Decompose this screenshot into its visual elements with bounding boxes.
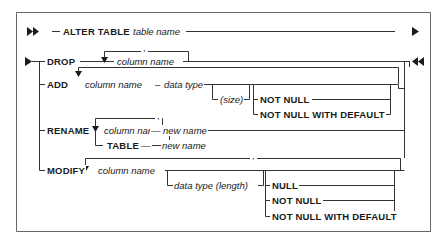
modify-option-null: NULL [271, 180, 299, 191]
add-data-type: data type [163, 79, 204, 90]
rename-dash: — [150, 125, 162, 136]
repeat-arrow-icon [75, 71, 82, 77]
drop-column-name: column name [116, 56, 175, 67]
continuation-arrow-icon [25, 57, 32, 66]
add-size: (size) [219, 94, 244, 105]
table-name-variable: table name [132, 26, 181, 37]
add-dash: – [154, 79, 161, 90]
drop-keyword: DROP [46, 56, 76, 67]
add-option-not-null: NOT NULL [259, 94, 311, 105]
rename-repeat-separator: , [155, 112, 162, 121]
rename-new-name: new name [162, 125, 208, 136]
repeat-arrow-icon [101, 57, 108, 63]
start-double-arrow-icon [27, 27, 39, 36]
rename-keyword: RENAME [46, 125, 90, 136]
modify-option-not-null: NOT NULL [271, 195, 323, 206]
syntax-diagram: ALTER TABLE table name DROP , column nam… [0, 0, 448, 245]
continue-arrow-icon [412, 27, 419, 36]
repeat-arrow-icon [92, 126, 99, 132]
add-option-not-null-with-default: NOT NULL WITH DEFAULT [259, 109, 386, 120]
alter-table-keyword: ALTER TABLE [62, 26, 131, 37]
add-column-name: column name [84, 79, 143, 90]
rename-table-new-name: new name [161, 140, 207, 151]
modify-option-not-null-with-default: NOT NULL WITH DEFAULT [271, 211, 398, 222]
modify-column-name: column name [97, 165, 156, 176]
modify-repeat-separator: , [250, 152, 257, 161]
rename-table-keyword: TABLE [106, 140, 140, 151]
drop-repeat-separator: , [141, 44, 148, 53]
rename-table-dash: — [140, 140, 152, 151]
modify-data-type-length: data type (length) [173, 180, 249, 191]
add-keyword: ADD [46, 79, 69, 90]
modify-keyword: MODIFY [46, 165, 86, 176]
end-double-arrow-icon [412, 57, 424, 66]
